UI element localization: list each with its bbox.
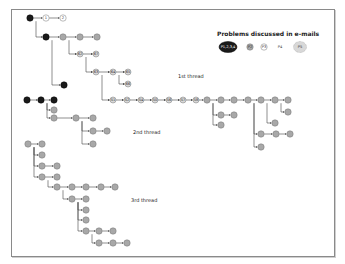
email-node[interactable]: 63 bbox=[93, 69, 99, 75]
email-node[interactable] bbox=[51, 115, 57, 121]
email-node[interactable]: 51 bbox=[110, 97, 116, 103]
email-node[interactable] bbox=[231, 97, 237, 103]
email-node[interactable] bbox=[27, 15, 33, 21]
reply-edge bbox=[78, 202, 82, 210]
thread-label-3rd: 3rd thread bbox=[131, 197, 157, 203]
email-node[interactable] bbox=[218, 112, 224, 118]
email-node[interactable] bbox=[39, 163, 45, 169]
email-node[interactable] bbox=[204, 97, 210, 103]
email-node[interactable] bbox=[54, 184, 60, 190]
email-node[interactable] bbox=[90, 128, 96, 134]
node-label: 57 bbox=[181, 98, 186, 102]
email-node[interactable]: 54 bbox=[138, 97, 144, 103]
email-node[interactable] bbox=[272, 97, 278, 103]
email-node[interactable] bbox=[83, 228, 89, 234]
legend-item: P3 bbox=[261, 44, 267, 50]
reply-edge bbox=[92, 234, 95, 243]
email-node[interactable] bbox=[218, 122, 224, 128]
email-node[interactable] bbox=[69, 196, 75, 202]
email-node[interactable] bbox=[258, 131, 264, 137]
email-node[interactable] bbox=[25, 141, 31, 147]
node-label: 66 bbox=[126, 82, 131, 86]
email-node[interactable] bbox=[96, 228, 102, 234]
email-node[interactable]: 56 bbox=[166, 97, 172, 103]
email-node[interactable]: 1 bbox=[43, 15, 49, 21]
email-node[interactable] bbox=[39, 174, 45, 180]
email-node[interactable]: 62 bbox=[77, 51, 83, 57]
email-node[interactable] bbox=[287, 131, 293, 137]
email-node[interactable] bbox=[43, 34, 49, 40]
email-node[interactable] bbox=[83, 184, 89, 190]
node-label: 50 bbox=[153, 98, 158, 102]
email-node[interactable] bbox=[83, 196, 89, 202]
email-node[interactable] bbox=[104, 128, 110, 134]
email-node[interactable] bbox=[54, 174, 60, 180]
email-node[interactable] bbox=[24, 97, 30, 103]
reply-edge bbox=[48, 180, 53, 187]
email-node[interactable] bbox=[245, 97, 251, 103]
email-node[interactable] bbox=[83, 207, 89, 213]
reply-edge bbox=[213, 103, 217, 125]
node-label: 51 bbox=[111, 98, 116, 102]
email-node[interactable] bbox=[60, 34, 66, 40]
legend-item-label: P1,2,3,4 bbox=[221, 45, 236, 49]
node-label: 58 bbox=[194, 98, 199, 102]
thread-label-1st: 1st thread bbox=[178, 73, 204, 79]
node-label: 63 bbox=[94, 70, 99, 74]
email-node[interactable] bbox=[90, 115, 96, 121]
legend-item: P4 bbox=[278, 45, 283, 49]
email-node[interactable] bbox=[90, 141, 96, 147]
email-node[interactable]: 66 bbox=[125, 81, 131, 87]
email-node[interactable] bbox=[285, 97, 291, 103]
email-node[interactable] bbox=[61, 82, 67, 88]
email-node[interactable] bbox=[94, 34, 100, 40]
reply-edge bbox=[78, 202, 82, 231]
email-node[interactable] bbox=[96, 240, 102, 246]
legend-item: P5 bbox=[294, 42, 307, 53]
email-node[interactable] bbox=[73, 115, 79, 121]
email-node[interactable] bbox=[258, 144, 264, 150]
email-node[interactable] bbox=[83, 217, 89, 223]
email-node[interactable]: 50 bbox=[152, 97, 158, 103]
reply-edge bbox=[213, 103, 217, 115]
email-node[interactable] bbox=[77, 34, 83, 40]
email-node[interactable] bbox=[112, 184, 118, 190]
email-node[interactable] bbox=[231, 112, 237, 118]
reply-edge bbox=[69, 40, 77, 54]
legend-item-label: P5 bbox=[298, 45, 302, 49]
node-label: 52 bbox=[125, 98, 130, 102]
email-node[interactable] bbox=[69, 184, 75, 190]
email-node[interactable] bbox=[51, 97, 57, 103]
email-node[interactable] bbox=[39, 141, 45, 147]
email-node[interactable]: 67 bbox=[93, 51, 99, 57]
email-node[interactable]: 57 bbox=[180, 97, 186, 103]
email-node[interactable] bbox=[51, 107, 57, 113]
email-node[interactable] bbox=[272, 120, 278, 126]
email-node[interactable] bbox=[98, 184, 104, 190]
reply-edge bbox=[36, 21, 42, 37]
reply-edge bbox=[34, 147, 38, 155]
legend-item-label: P2 bbox=[248, 45, 252, 49]
email-node[interactable]: 64 bbox=[110, 69, 116, 75]
reply-edge bbox=[254, 103, 257, 134]
email-node[interactable] bbox=[110, 228, 116, 234]
email-node[interactable] bbox=[39, 152, 45, 158]
email-node[interactable] bbox=[273, 131, 279, 137]
thread-tree-diagram: 1262676364656651525450565758 P1,2,3,4P2P… bbox=[0, 0, 345, 264]
email-node[interactable]: 52 bbox=[124, 97, 130, 103]
reply-edge bbox=[34, 147, 38, 166]
email-node[interactable] bbox=[285, 109, 291, 115]
email-node[interactable]: 58 bbox=[193, 97, 199, 103]
email-node[interactable] bbox=[218, 97, 224, 103]
email-node[interactable]: 65 bbox=[125, 69, 131, 75]
email-node[interactable] bbox=[110, 240, 116, 246]
email-node[interactable] bbox=[54, 163, 60, 169]
email-node[interactable] bbox=[124, 240, 130, 246]
reply-edge bbox=[34, 147, 38, 177]
email-node[interactable] bbox=[38, 97, 44, 103]
email-node[interactable] bbox=[258, 97, 264, 103]
reply-edge bbox=[86, 57, 93, 72]
reply-edge bbox=[82, 121, 89, 131]
email-node[interactable]: 2 bbox=[60, 15, 66, 21]
node-label: 64 bbox=[111, 70, 116, 74]
